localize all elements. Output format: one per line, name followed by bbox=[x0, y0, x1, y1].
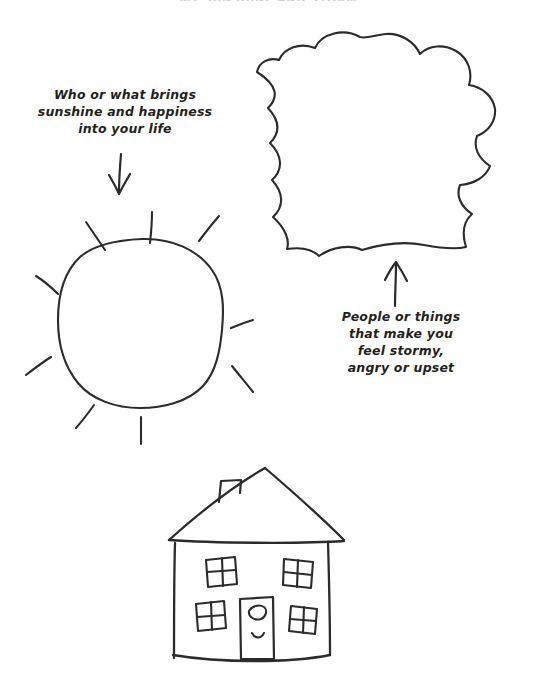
worksheet-page: MY SUNSHINE AND STORM bbox=[0, 0, 537, 690]
house-eaves bbox=[169, 540, 344, 543]
sun-ray-5 bbox=[231, 320, 253, 328]
sun-ray-3 bbox=[199, 216, 219, 241]
house-roof-right bbox=[265, 468, 344, 540]
house-drawing bbox=[169, 468, 344, 661]
house-window-lower-left bbox=[196, 601, 226, 631]
house-window-upper-right bbox=[283, 559, 313, 588]
house-door-handle bbox=[249, 606, 266, 620]
sun-ray-4 bbox=[36, 276, 58, 294]
sun-ray-8 bbox=[76, 405, 94, 428]
house-wall-left bbox=[174, 543, 175, 658]
sun-ray-1 bbox=[86, 222, 105, 250]
house-window-upper-left bbox=[206, 557, 237, 587]
house-wall-right bbox=[328, 542, 330, 655]
sun-drawing bbox=[26, 212, 253, 444]
sun-rays bbox=[26, 212, 253, 444]
sun-ray-6 bbox=[26, 357, 51, 375]
caption-storm: People or things that make you feel stor… bbox=[329, 308, 473, 376]
cloud-drawing bbox=[257, 33, 495, 256]
arrow-down-to-sun bbox=[109, 154, 130, 194]
house-door-smile bbox=[252, 633, 264, 638]
arrow-up-to-cloud bbox=[385, 262, 407, 306]
house-window-lower-right bbox=[289, 606, 317, 634]
house-door bbox=[240, 597, 274, 659]
caption-sunshine: Who or what brings sunshine and happines… bbox=[28, 86, 222, 137]
house-roof-left bbox=[169, 468, 265, 540]
sun-ray-7 bbox=[232, 366, 253, 392]
